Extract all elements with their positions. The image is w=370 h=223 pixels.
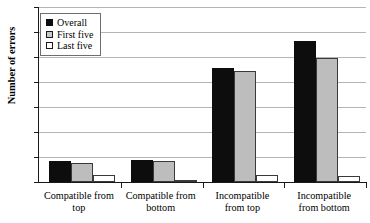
legend-item-first-five[interactable]: First five <box>46 29 93 41</box>
y-axis-tick <box>34 32 39 33</box>
bar-overall <box>212 68 234 182</box>
legend-swatch-icon <box>46 19 53 26</box>
bar-first-five <box>71 163 93 183</box>
chart-legend: OverallFirst fiveLast five <box>40 13 101 56</box>
y-axis-tick <box>34 182 39 183</box>
legend-swatch-icon <box>46 31 53 38</box>
y-axis-tick <box>34 132 39 133</box>
x-axis-category-label-line: Compatible from <box>38 190 120 202</box>
bar-overall <box>131 160 153 182</box>
legend-item-overall[interactable]: Overall <box>46 17 93 29</box>
bar-overall <box>49 161 71 182</box>
bar-overall <box>294 41 316 182</box>
bar-last-five <box>93 175 115 182</box>
x-axis-category-label: Compatible fromtop <box>38 190 120 213</box>
x-axis-category-label: Incompatiblefrom top <box>202 190 284 213</box>
x-axis-category-label: Incompatiblefrom bottom <box>283 190 365 213</box>
x-axis-tick <box>366 182 367 188</box>
gridline <box>39 7 366 8</box>
bar-last-five <box>338 176 360 182</box>
legend-item-label: Overall <box>57 17 87 28</box>
x-axis-category-label: Compatible frombottom <box>120 190 202 213</box>
x-axis-category-label-line: top <box>38 202 120 214</box>
x-axis-tick <box>121 182 122 188</box>
y-axis-tick <box>34 157 39 158</box>
bar-first-five <box>234 71 256 182</box>
x-axis-category-label-line: from bottom <box>283 202 365 214</box>
y-axis-title: Number of errors <box>6 11 17 121</box>
x-axis-tick <box>203 182 204 188</box>
legend-swatch-icon <box>46 42 53 49</box>
y-axis-tick <box>34 107 39 108</box>
legend-item-label: Last five <box>57 40 92 51</box>
legend-item-label: First five <box>57 29 93 40</box>
bar-first-five <box>153 161 175 182</box>
x-axis-category-label-line: Compatible from <box>120 190 202 202</box>
y-axis-tick <box>34 82 39 83</box>
y-axis-tick <box>34 57 39 58</box>
x-axis-category-label-line: from top <box>202 202 284 214</box>
y-axis-tick <box>34 7 39 8</box>
bar-last-five <box>256 175 278 182</box>
bar-chart: Number of errors 01234567 Compatible fro… <box>0 0 370 223</box>
x-axis-category-label-line: bottom <box>120 202 202 214</box>
bar-last-five <box>175 180 197 182</box>
x-axis-category-label-line: Incompatible <box>283 190 365 202</box>
bar-first-five <box>316 58 338 182</box>
x-axis-tick <box>284 182 285 188</box>
x-axis-category-label-line: Incompatible <box>202 190 284 202</box>
legend-item-last-five[interactable]: Last five <box>46 40 93 52</box>
